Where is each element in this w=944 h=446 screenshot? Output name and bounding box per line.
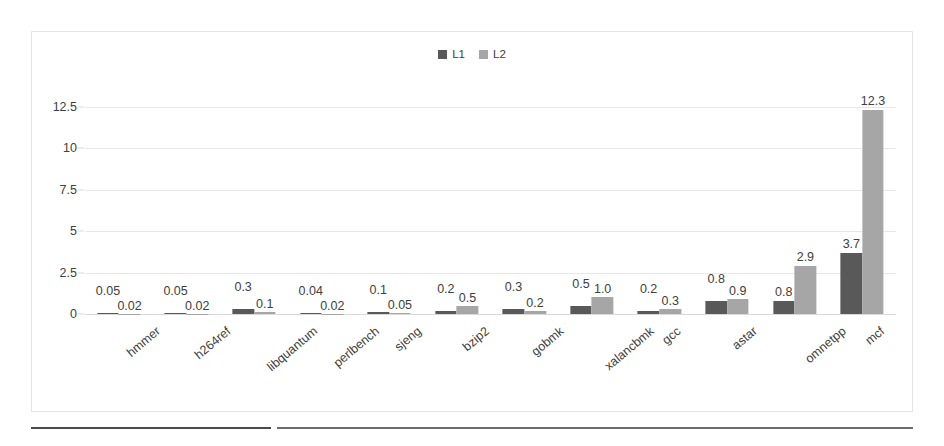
bar-l2[interactable] (389, 313, 411, 314)
y-tick-mark (78, 314, 84, 315)
bar-groups: 0.050.020.050.020.30.10.040.020.10.050.2… (85, 86, 896, 314)
legend-item-l1[interactable]: L1 (438, 48, 465, 60)
bar-l2[interactable] (862, 110, 884, 314)
bar-l1[interactable] (705, 301, 727, 314)
bar-group: 0.040.02 (288, 86, 356, 314)
data-label-l1: 0.1 (370, 283, 387, 297)
x-axis-label-cell: omnetpp (761, 318, 829, 408)
legend-label: L1 (452, 48, 465, 60)
bar-l1[interactable] (638, 311, 660, 314)
bar-l1[interactable] (97, 313, 119, 314)
plot-area: 02.557.51012.5 0.050.020.050.020.30.10.0… (85, 86, 896, 314)
legend-swatch-icon (479, 50, 488, 59)
x-axis-label-cell: bzip2 (423, 318, 491, 408)
bar-l1[interactable] (773, 301, 795, 314)
legend-label: L2 (493, 48, 506, 60)
bar-l1[interactable] (232, 309, 254, 314)
y-axis-tick-label: 2.5 (60, 266, 77, 280)
page-rule-right (277, 427, 913, 429)
chart-frame: L1L2 02.557.51012.5 0.050.020.050.020.30… (31, 31, 913, 412)
data-label-l2: 0.3 (662, 294, 679, 308)
y-tick-mark (78, 189, 84, 190)
bar-pair (300, 86, 343, 314)
data-label-l1: 0.2 (640, 282, 657, 296)
bar-pair (97, 86, 140, 314)
x-axis-tick-label: astar (729, 324, 759, 353)
data-label-l1: 0.2 (437, 282, 454, 296)
x-axis-tick-label: bzip2 (460, 324, 492, 354)
data-label-l1: 0.05 (163, 284, 187, 298)
bar-pair (367, 86, 410, 314)
bar-l2[interactable] (254, 312, 276, 314)
bar-group: 0.20.3 (626, 86, 694, 314)
data-label-l2: 0.02 (320, 299, 344, 313)
bar-group: 0.30.1 (220, 86, 288, 314)
bar-l2[interactable] (524, 311, 546, 314)
data-label-l2: 0.1 (256, 297, 273, 311)
bar-l2[interactable] (795, 266, 817, 314)
bar-l1[interactable] (367, 312, 389, 314)
data-label-l1: 0.8 (775, 285, 792, 299)
y-axis-tick-label: 0 (70, 307, 77, 321)
data-label-l1: 0.8 (707, 272, 724, 286)
bar-l1[interactable] (503, 309, 525, 314)
legend-swatch-icon (438, 50, 447, 59)
bar-l1[interactable] (165, 313, 187, 314)
data-label-l2: 0.05 (388, 298, 412, 312)
page-rule-left (31, 427, 271, 429)
y-tick-mark (78, 106, 84, 107)
bar-group: 3.712.3 (828, 86, 896, 314)
x-axis-label-cell: sjeng (355, 318, 423, 408)
data-label-l1: 0.5 (572, 277, 589, 291)
data-label-l2: 12.3 (861, 94, 885, 108)
y-axis-tick-label: 12.5 (53, 100, 77, 114)
bar-l2[interactable] (457, 306, 479, 314)
bar-pair (773, 86, 816, 314)
y-tick-mark (78, 231, 84, 232)
x-axis-label-cell: gobmk (490, 318, 558, 408)
data-label-l1: 0.3 (505, 280, 522, 294)
data-label-l1: 0.3 (234, 280, 251, 294)
bar-group: 0.050.02 (153, 86, 221, 314)
bar-l2[interactable] (727, 299, 749, 314)
bar-group: 0.82.9 (761, 86, 829, 314)
x-axis-label-cell: astar (693, 318, 761, 408)
x-axis-labels: hmmerh264reflibquantumperlbenchsjengbzip… (85, 318, 896, 408)
data-label-l2: 0.5 (459, 291, 476, 305)
y-tick-mark (78, 148, 84, 149)
chart-page: L1L2 02.557.51012.5 0.050.020.050.020.30… (0, 0, 944, 446)
bar-l1[interactable] (435, 311, 457, 314)
bar-pair (435, 86, 478, 314)
data-label-l2: 2.9 (797, 250, 814, 264)
x-axis-label-cell: perlbench (288, 318, 356, 408)
data-label-l2: 0.02 (117, 299, 141, 313)
data-label-l2: 0.9 (729, 284, 746, 298)
x-axis-tick-label: mcf (863, 324, 887, 348)
data-label-l1: 0.04 (299, 284, 323, 298)
bar-group: 0.050.02 (85, 86, 153, 314)
gridline (85, 314, 896, 315)
bar-l1[interactable] (300, 313, 322, 314)
chart-legend: L1L2 (32, 48, 912, 60)
bar-l1[interactable] (570, 306, 592, 314)
y-axis-tick-label: 5 (70, 224, 77, 238)
data-label-l1: 0.05 (96, 284, 120, 298)
data-label-l1: 3.7 (843, 237, 860, 251)
x-axis-label-cell: mcf (828, 318, 896, 408)
x-axis-label-cell: libquantum (220, 318, 288, 408)
x-axis-label-cell: xalancbmk (558, 318, 626, 408)
bar-pair (841, 86, 884, 314)
bar-l2[interactable] (592, 297, 614, 314)
data-label-l2: 0.02 (185, 299, 209, 313)
bar-pair (165, 86, 208, 314)
x-axis-label-cell: hmmer (85, 318, 153, 408)
y-axis-tick-label: 10 (63, 141, 77, 155)
bar-pair (638, 86, 681, 314)
x-axis-tick-label: sjeng (392, 324, 424, 354)
x-axis-tick-label: gcc (660, 324, 684, 347)
bar-l2[interactable] (659, 309, 681, 314)
bar-l1[interactable] (841, 253, 863, 314)
bar-group: 0.20.5 (423, 86, 491, 314)
legend-item-l2[interactable]: L2 (479, 48, 506, 60)
bar-group: 0.10.05 (355, 86, 423, 314)
